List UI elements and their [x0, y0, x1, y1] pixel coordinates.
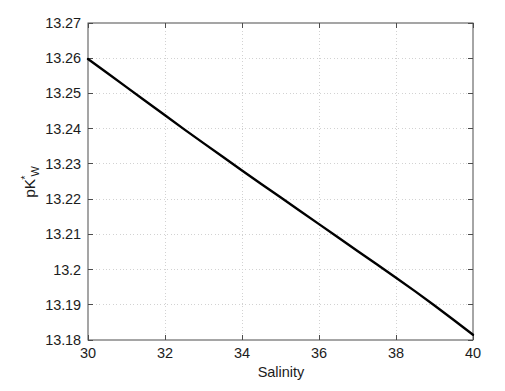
x-tick-label: 32 [157, 345, 173, 361]
y-tick-label: 13.22 [45, 191, 81, 207]
x-axis-label: Salinity [258, 364, 305, 380]
y-tick-label: 13.21 [45, 226, 81, 242]
y-tick-label: 13.25 [45, 85, 81, 101]
x-tick-label: 34 [234, 345, 250, 361]
x-tick-label: 30 [80, 345, 96, 361]
chart-figure: 13.1813.1913.213.2113.2213.2313.2413.251… [0, 0, 505, 391]
y-axis-label-base: pK [21, 179, 38, 198]
x-tick-label: 36 [311, 345, 327, 361]
y-tick-label: 13.27 [45, 15, 81, 31]
y-tick-label: 13.2 [53, 262, 81, 278]
data-series-line [88, 59, 473, 335]
y-tick-label: 13.24 [45, 121, 81, 137]
x-tick-label: 38 [388, 345, 404, 361]
x-tick-label: 40 [465, 345, 481, 361]
y-tick-label: 13.18 [45, 332, 81, 348]
y-tick-label: 13.23 [45, 156, 81, 172]
y-axis-label: pK*W [19, 164, 41, 198]
y-tick-label: 13.26 [45, 50, 81, 66]
y-tick-label: 13.19 [45, 297, 81, 313]
y-axis-label-subscript: W [29, 166, 41, 176]
